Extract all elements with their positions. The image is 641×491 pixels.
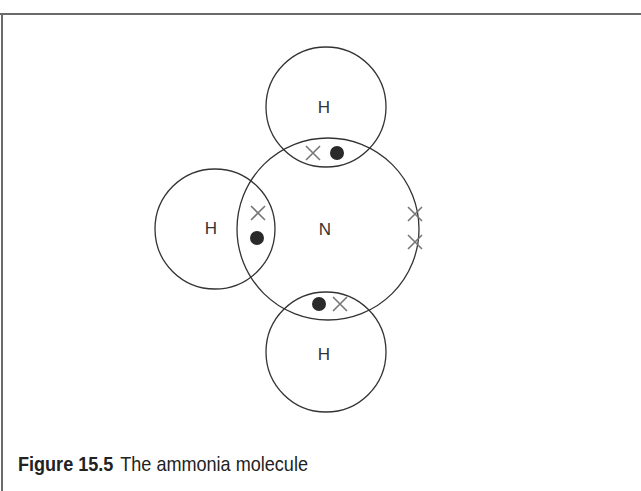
figure-number: Figure 15.5 xyxy=(18,452,113,475)
nitrogen-label: N xyxy=(319,220,331,239)
hydrogen-top-label: H xyxy=(318,98,330,117)
figure-caption: Figure 15.5The ammonia molecule xyxy=(18,452,308,476)
hydrogen-left-label: H xyxy=(205,219,217,238)
ammonia-dot-cross-diagram: N H H H xyxy=(0,0,641,491)
electron-dot-icon xyxy=(330,146,344,160)
electron-dot-icon xyxy=(312,297,326,311)
electron-dot-icon xyxy=(250,231,264,245)
electron-cross-icon xyxy=(251,206,265,220)
hydrogen-bottom-label: H xyxy=(318,345,330,364)
electron-cross-icon xyxy=(408,235,422,249)
electron-cross-icon xyxy=(408,207,422,221)
electron-cross-icon xyxy=(306,146,320,160)
figure-title: The ammonia molecule xyxy=(120,452,308,475)
electron-cross-icon xyxy=(333,297,347,311)
